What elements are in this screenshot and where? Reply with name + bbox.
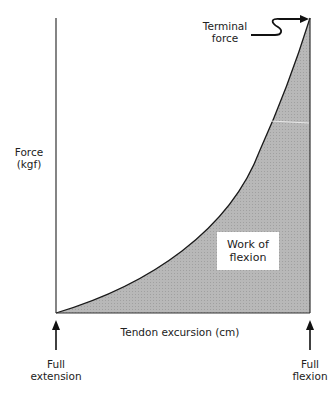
terminal-force-arrow-icon: [251, 15, 309, 35]
work-of-flexion-label: Work of flexion: [217, 232, 279, 270]
full-extension-line2: extension: [26, 370, 86, 382]
full-flexion-label: Full flexion: [290, 358, 330, 382]
terminal-force-line1: Terminal: [200, 20, 250, 32]
terminal-force-label: Terminal force: [200, 20, 250, 44]
work-of-flexion-line1: Work of: [227, 238, 269, 251]
y-axis-label-line1: Force: [10, 146, 48, 158]
full-flexion-arrow-icon: [306, 320, 314, 350]
work-of-flexion-line2: flexion: [230, 251, 267, 264]
x-axis-label: Tendon excursion (cm): [110, 326, 250, 338]
y-axis-label: Force (kgf): [10, 146, 48, 170]
full-flexion-line1: Full: [290, 358, 330, 370]
full-flexion-line2: flexion: [290, 370, 330, 382]
y-axis-label-line2: (kgf): [10, 158, 48, 170]
full-extension-label: Full extension: [26, 358, 86, 382]
terminal-force-line2: force: [200, 32, 250, 44]
full-extension-arrow-icon: [52, 320, 60, 350]
full-extension-line1: Full: [26, 358, 86, 370]
